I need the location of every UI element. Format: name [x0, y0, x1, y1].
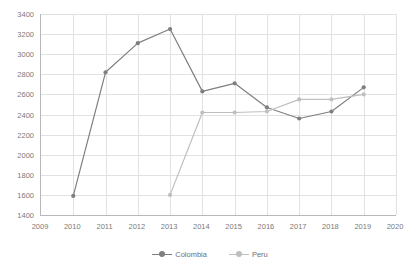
x-axis-tick-label: 2009: [32, 222, 49, 231]
y-axis-tick-label: 3000: [17, 50, 34, 59]
data-point: Colombia 2010: 1590: [71, 194, 75, 198]
data-point: Colombia 2014: 2630: [200, 89, 204, 93]
x-axis-tick-label: 2019: [354, 222, 371, 231]
x-axis-tick-label: 2017: [290, 222, 307, 231]
legend-label: Colombia: [175, 251, 207, 259]
data-point: Colombia 2018: 2430: [329, 109, 333, 113]
x-axis-tick-label: 2016: [258, 222, 275, 231]
x-axis-tick-label: 2020: [387, 222, 404, 231]
x-axis-tick-label: 2015: [225, 222, 242, 231]
x-axis-tick-labels: 2009201020112012201320142015201620172018…: [40, 222, 396, 236]
data-point: Peru 2019: 2600: [362, 92, 366, 96]
data-point: Peru 2014: 2420: [200, 110, 204, 114]
data-point: Colombia 2019: 2670: [362, 85, 366, 89]
chart-legend: ColombiaPeru: [0, 251, 420, 259]
data-point: Peru 2017: 2550: [297, 97, 301, 101]
line-chart: 1400160018002000220024002600280030003200…: [0, 0, 420, 262]
data-point: Colombia 2013: 3250: [168, 27, 172, 31]
gridline-vertical: [396, 14, 397, 215]
y-axis-tick-label: 1400: [17, 211, 34, 220]
legend-marker-icon: [152, 251, 172, 258]
legend-label: Peru: [252, 251, 268, 259]
y-axis-tick-label: 2200: [17, 130, 34, 139]
y-axis-tick-label: 2000: [17, 150, 34, 159]
x-axis-tick-label: 2010: [64, 222, 81, 231]
x-axis-tick-label: 2018: [322, 222, 339, 231]
data-point: Peru 2015: 2420: [233, 110, 237, 114]
data-point: Colombia 2017: 2360: [297, 116, 301, 120]
y-axis-tick-label: 3400: [17, 10, 34, 19]
legend-item-peru[interactable]: Peru: [229, 251, 268, 259]
data-point: Peru 2013: 1600: [168, 193, 172, 197]
y-axis-tick-label: 2600: [17, 90, 34, 99]
plot-area: Colombia 2010: 1590Colombia 2011: 2820Co…: [40, 14, 396, 216]
y-axis-tick-label: 2400: [17, 110, 34, 119]
y-axis-tick-label: 2800: [17, 70, 34, 79]
data-point: Colombia 2015: 2710: [233, 81, 237, 85]
data-point: Peru 2018: 2550: [329, 97, 333, 101]
y-axis-tick-label: 1800: [17, 170, 34, 179]
legend-marker-icon: [229, 251, 249, 258]
legend-item-colombia[interactable]: Colombia: [152, 251, 207, 259]
series-layer: Colombia 2010: 1590Colombia 2011: 2820Co…: [41, 14, 396, 215]
data-point: Peru 2016: 2430: [265, 109, 269, 113]
y-axis-tick-label: 3200: [17, 30, 34, 39]
y-axis-tick-label: 1600: [17, 190, 34, 199]
x-axis-tick-label: 2013: [161, 222, 178, 231]
data-point: Colombia 2012: 3110: [136, 41, 140, 45]
data-point: Colombia 2016: 2470: [265, 105, 269, 109]
x-axis-tick-label: 2014: [193, 222, 210, 231]
x-axis-tick-label: 2011: [96, 222, 112, 231]
y-axis-tick-labels: 1400160018002000220024002600280030003200…: [0, 14, 38, 216]
x-axis-tick-label: 2012: [128, 222, 145, 231]
data-point: Colombia 2011: 2820: [103, 70, 107, 74]
